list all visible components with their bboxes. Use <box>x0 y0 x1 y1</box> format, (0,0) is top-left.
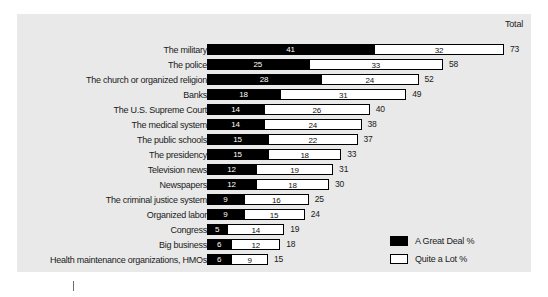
chart-panel: Total The military413273The police253358… <box>17 14 531 272</box>
legend-label: Quite a Lot % <box>415 254 467 264</box>
category-label: The military <box>0 44 207 56</box>
bar-segment-a-great-deal: 9 <box>207 194 244 205</box>
category-label: The criminal justice system <box>0 194 207 206</box>
bar-segment-a-great-deal: 15 <box>207 149 268 160</box>
bar-segment-a-great-deal: 41 <box>207 44 374 55</box>
category-label: The church or organized religion <box>0 74 207 86</box>
chart-row: Newspapers121830 <box>17 178 531 193</box>
bar-segment-a-great-deal: 28 <box>207 74 321 85</box>
bar-segment-a-great-deal: 25 <box>207 59 309 70</box>
row-total-value: 31 <box>339 164 348 175</box>
bar-segment-quite-a-lot: 24 <box>321 74 419 85</box>
row-total-value: 52 <box>425 74 434 85</box>
bar-segment-a-great-deal: 5 <box>207 224 227 235</box>
category-label: Newspapers <box>0 179 207 191</box>
chart-row: The police253358 <box>17 58 531 73</box>
bar-segment-quite-a-lot: 24 <box>264 119 362 130</box>
category-label: Television news <box>0 164 207 176</box>
total-column-header: Total <box>505 19 523 29</box>
category-label: The medical system <box>0 119 207 131</box>
bar-segment-quite-a-lot: 22 <box>268 134 358 145</box>
bar-segment-quite-a-lot: 33 <box>309 59 443 70</box>
row-total-value: 58 <box>449 59 458 70</box>
bar-segment-quite-a-lot: 15 <box>244 209 305 220</box>
bar-segment-quite-a-lot: 31 <box>280 89 406 100</box>
bar-segment-a-great-deal: 9 <box>207 209 244 220</box>
category-label: Big business <box>0 239 207 251</box>
chart-row: Television news121931 <box>17 163 531 178</box>
bar-segment-quite-a-lot: 16 <box>244 194 309 205</box>
category-label: The public schools <box>0 134 207 146</box>
bar-segment-a-great-deal: 12 <box>207 179 256 190</box>
legend-item: Quite a Lot % <box>390 250 525 268</box>
chart-row: The presidency151833 <box>17 148 531 163</box>
row-total-value: 15 <box>274 254 283 265</box>
chart-row: Banks183149 <box>17 88 531 103</box>
row-total-value: 24 <box>311 209 320 220</box>
category-label: Congress <box>0 224 207 236</box>
chart-row: The criminal justice system91625 <box>17 193 531 208</box>
bar-segment-a-great-deal: 15 <box>207 134 268 145</box>
row-total-value: 18 <box>286 239 295 250</box>
category-label: Organized labor <box>0 209 207 221</box>
category-label: The presidency <box>0 149 207 161</box>
category-label: Health maintenance organizations, HMOs <box>0 254 207 266</box>
bar-segment-quite-a-lot: 26 <box>264 104 370 115</box>
row-total-value: 73 <box>510 44 519 55</box>
bar-segment-quite-a-lot: 12 <box>231 239 280 250</box>
legend-label: A Great Deal % <box>415 236 474 246</box>
row-total-value: 40 <box>376 104 385 115</box>
row-total-value: 33 <box>347 149 356 160</box>
row-total-value: 19 <box>290 224 299 235</box>
chart-row: The public schools152237 <box>17 133 531 148</box>
bar-segment-quite-a-lot: 32 <box>374 44 504 55</box>
chart-row: The U.S. Supreme Court142640 <box>17 103 531 118</box>
bar-segment-quite-a-lot: 14 <box>227 224 284 235</box>
bar-segment-a-great-deal: 6 <box>207 254 231 265</box>
row-total-value: 30 <box>335 179 344 190</box>
bar-segment-quite-a-lot: 9 <box>231 254 268 265</box>
category-label: The U.S. Supreme Court <box>0 104 207 116</box>
category-label: Banks <box>0 89 207 101</box>
chart-row: The church or organized religion282452 <box>17 73 531 88</box>
legend-swatch-great <box>390 236 408 246</box>
bar-segment-quite-a-lot: 19 <box>256 164 333 175</box>
bar-segment-quite-a-lot: 18 <box>256 179 329 190</box>
bar-segment-a-great-deal: 6 <box>207 239 231 250</box>
row-total-value: 37 <box>364 134 373 145</box>
bar-segment-a-great-deal: 14 <box>207 119 264 130</box>
bar-segment-a-great-deal: 12 <box>207 164 256 175</box>
row-total-value: 38 <box>368 119 377 130</box>
chart-row: The medical system142438 <box>17 118 531 133</box>
chart-row: Organized labor91524 <box>17 208 531 223</box>
chart-row: The military413273 <box>17 43 531 58</box>
legend-item: A Great Deal % <box>390 232 525 250</box>
legend-swatch-quite <box>390 254 408 264</box>
bar-segment-a-great-deal: 14 <box>207 104 264 115</box>
bar-segment-a-great-deal: 18 <box>207 89 280 100</box>
bottom-tick-mark <box>73 281 74 291</box>
bar-segment-quite-a-lot: 18 <box>268 149 341 160</box>
category-label: The police <box>0 59 207 71</box>
row-total-value: 49 <box>412 89 421 100</box>
chart-legend: A Great Deal %Quite a Lot % <box>390 232 525 268</box>
row-total-value: 25 <box>315 194 324 205</box>
